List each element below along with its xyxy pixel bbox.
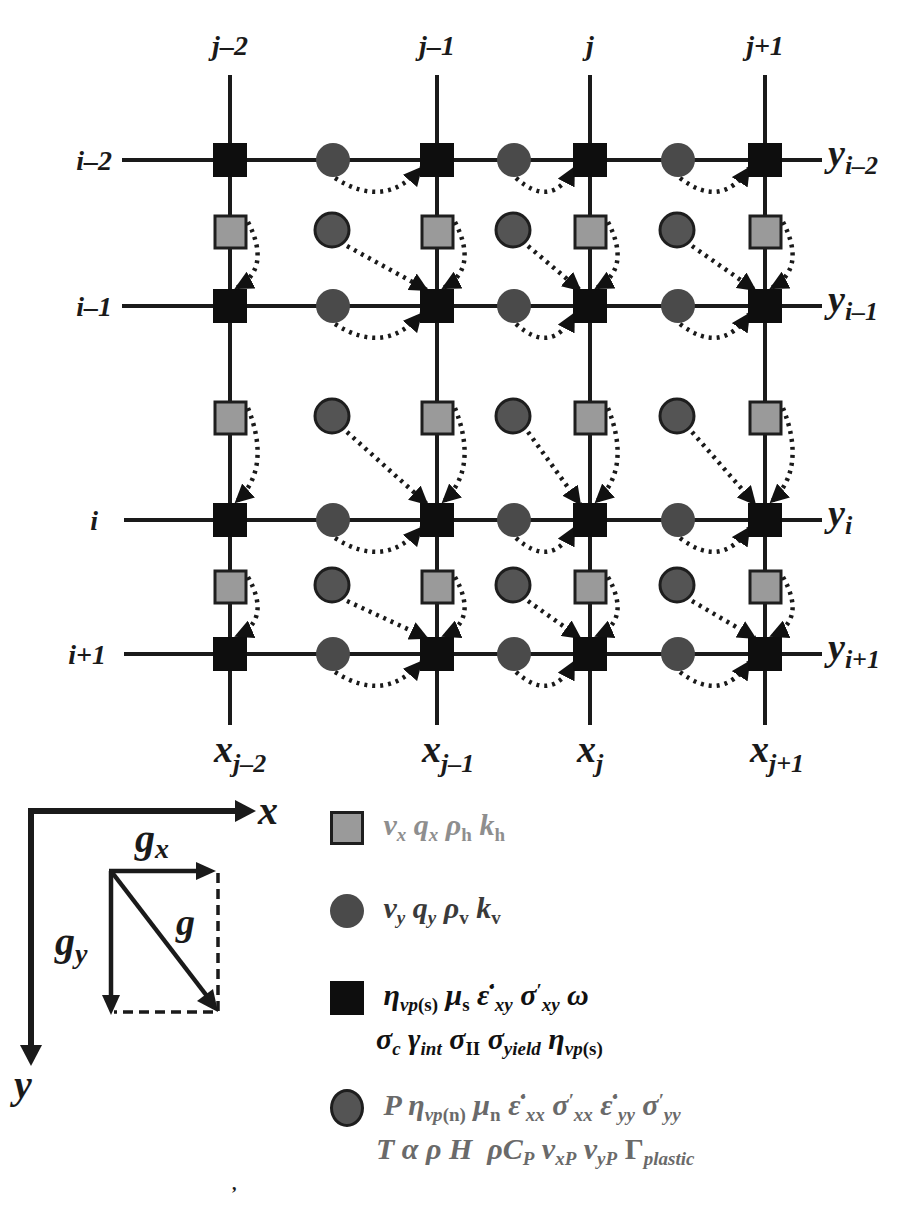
row-label: i–2 xyxy=(76,145,112,176)
legend-text: vy qy ρv kv xyxy=(384,891,501,924)
column-label: j–2 xyxy=(208,30,248,61)
basic-node-icon xyxy=(213,289,247,323)
g-arrowhead-icon xyxy=(197,989,218,1012)
interp-arrow xyxy=(335,528,421,552)
basic-node-icon xyxy=(748,503,782,537)
y-coordinate-labels: yi–2 yi–1 yi yi+1 xyxy=(824,132,880,674)
pressure-node-icon xyxy=(660,568,694,602)
x-coord-label: xj+1 xyxy=(749,728,804,778)
pressure-node-icon xyxy=(496,399,530,433)
legend-text: P ηvp(n) μn ε̇′xx σ′xx ε̇′yy σ′yy xyxy=(384,1088,681,1121)
column-label: j+1 xyxy=(742,30,784,61)
pressure-node-icon xyxy=(315,568,349,602)
x-axis-label: x xyxy=(257,788,278,833)
vy-node-icon xyxy=(497,503,531,537)
y-axis-label: y xyxy=(10,1062,32,1107)
y-coord-label: yi–1 xyxy=(824,278,878,326)
vy-node-icon xyxy=(661,503,695,537)
basic-node-icon xyxy=(420,637,454,671)
basic-node-icon xyxy=(748,143,782,177)
vy-node-icon xyxy=(661,289,695,323)
vx-node-icon xyxy=(215,216,246,248)
vx-node-icon xyxy=(575,402,606,434)
pressure-node-icon xyxy=(496,568,530,602)
row-label: i–1 xyxy=(76,291,112,322)
gray-square-icon xyxy=(330,811,364,845)
x-coord-label: xj–1 xyxy=(421,728,474,778)
interp-arrow xyxy=(528,432,580,504)
vy-node-icon xyxy=(661,637,695,671)
vx-node-icon xyxy=(422,216,453,248)
basic-node-icon xyxy=(573,503,607,537)
grid-nodes xyxy=(213,143,782,671)
pressure-node-icon xyxy=(660,213,694,247)
interp-arrow xyxy=(335,168,421,192)
basic-node-icon xyxy=(573,143,607,177)
interp-arrow xyxy=(347,601,427,638)
vy-node-icon xyxy=(316,289,350,323)
basic-node-icon xyxy=(748,289,782,323)
interp-arrow xyxy=(528,601,580,638)
gx-arrowhead-icon xyxy=(196,862,216,880)
vx-node-icon xyxy=(422,571,453,603)
interp-arrow xyxy=(528,246,580,290)
interp-arrow xyxy=(347,246,427,290)
gravity-coordinate-diagram: x y gx gy g⃗ xyxy=(10,788,278,1107)
column-label: j–1 xyxy=(415,30,455,61)
vx-node-icon xyxy=(215,402,246,434)
interp-arrow xyxy=(335,662,421,686)
pressure-node-icon xyxy=(315,213,349,247)
basic-node-icon xyxy=(213,503,247,537)
gy-arrowhead-icon xyxy=(102,995,120,1015)
row-labels: i–2 i–1 i i+1 xyxy=(68,145,112,670)
basic-node-icon xyxy=(213,143,247,177)
x-axis-arrowhead-icon xyxy=(235,800,256,822)
x-coordinate-labels: xj–2 xj–1 xj xj+1 xyxy=(213,728,804,778)
y-coord-label: yi–2 xyxy=(824,132,878,180)
column-label: j xyxy=(582,30,594,61)
legend-item-vx: vx qx ρh kh xyxy=(330,802,505,858)
basic-node-icon xyxy=(420,503,454,537)
vx-node-icon xyxy=(750,402,781,434)
legend-text: σc γint σII σyield ηvp(s) xyxy=(376,1022,603,1055)
dark-circle-icon xyxy=(330,894,364,928)
y-coord-label: yi xyxy=(824,492,853,540)
interp-arrow xyxy=(347,432,427,504)
vx-node-icon xyxy=(750,571,781,603)
basic-node-icon xyxy=(420,289,454,323)
basic-node-icon xyxy=(213,637,247,671)
vx-node-icon xyxy=(575,216,606,248)
legend-text: T α ρ H ρCP vxP vyP Γplastic xyxy=(376,1132,694,1165)
legend-text: ηvp(s) μs ε̇′xy σ′xy ω xyxy=(384,978,589,1011)
vy-node-icon xyxy=(497,143,531,177)
row-label: i xyxy=(90,505,98,536)
black-square-icon xyxy=(330,981,364,1015)
vx-node-icon xyxy=(750,216,781,248)
vx-node-icon xyxy=(422,402,453,434)
vy-node-icon xyxy=(316,637,350,671)
basic-node-icon xyxy=(573,289,607,323)
vy-node-icon xyxy=(661,143,695,177)
pressure-node-icon xyxy=(315,399,349,433)
x-coord-label: xj xyxy=(576,728,604,778)
gray-circle-icon xyxy=(330,1089,364,1127)
gy-label: gy xyxy=(54,919,88,969)
vy-node-icon xyxy=(497,289,531,323)
vx-node-icon xyxy=(575,571,606,603)
legend-item-pressure-node-line2: T α ρ H ρCP vxP vyP Γplastic xyxy=(330,1126,694,1182)
stray-mark: , xyxy=(232,1174,237,1194)
interp-arrow xyxy=(692,246,755,290)
interp-arrow xyxy=(692,601,755,638)
basic-node-icon xyxy=(748,637,782,671)
basic-node-icon xyxy=(573,637,607,671)
vy-node-icon xyxy=(316,143,350,177)
vx-node-icon xyxy=(215,571,246,603)
vy-node-icon xyxy=(497,637,531,671)
basic-node-icon xyxy=(420,143,454,177)
g-vector-label: g⃗ xyxy=(175,901,225,943)
legend-item-basic-node-line2: σc γint σII σyield ηvp(s) xyxy=(330,1016,603,1072)
pressure-node-icon xyxy=(496,213,530,247)
x-coord-label: xj–2 xyxy=(213,728,266,778)
legend-item-vy: vy qy ρv kv xyxy=(330,885,501,941)
pressure-node-icon xyxy=(660,399,694,433)
